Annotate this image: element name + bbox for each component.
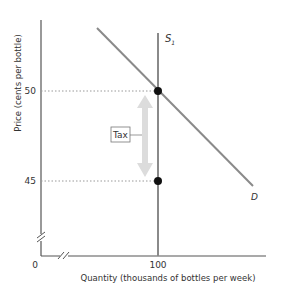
- tax-double-arrow-icon: [137, 95, 153, 177]
- point-price-45: [154, 177, 162, 185]
- tax-label: Tax: [112, 130, 129, 140]
- y-tick-50: 50: [25, 86, 37, 96]
- y-axis-title: Price (cents per bottle): [13, 34, 23, 132]
- demand-curve: [97, 28, 253, 186]
- supply-label: S1: [165, 33, 175, 46]
- x-axis-title: Quantity (thousands of bottles per week): [81, 273, 256, 283]
- chart-canvas: Tax S1 D 50 45 0 100 Quantity (thousands…: [0, 0, 283, 295]
- y-tick-45: 45: [25, 176, 36, 186]
- x-tick-100: 100: [149, 260, 166, 270]
- x-tick-0: 0: [32, 260, 38, 270]
- point-price-50: [154, 87, 162, 95]
- demand-label: D: [251, 192, 258, 202]
